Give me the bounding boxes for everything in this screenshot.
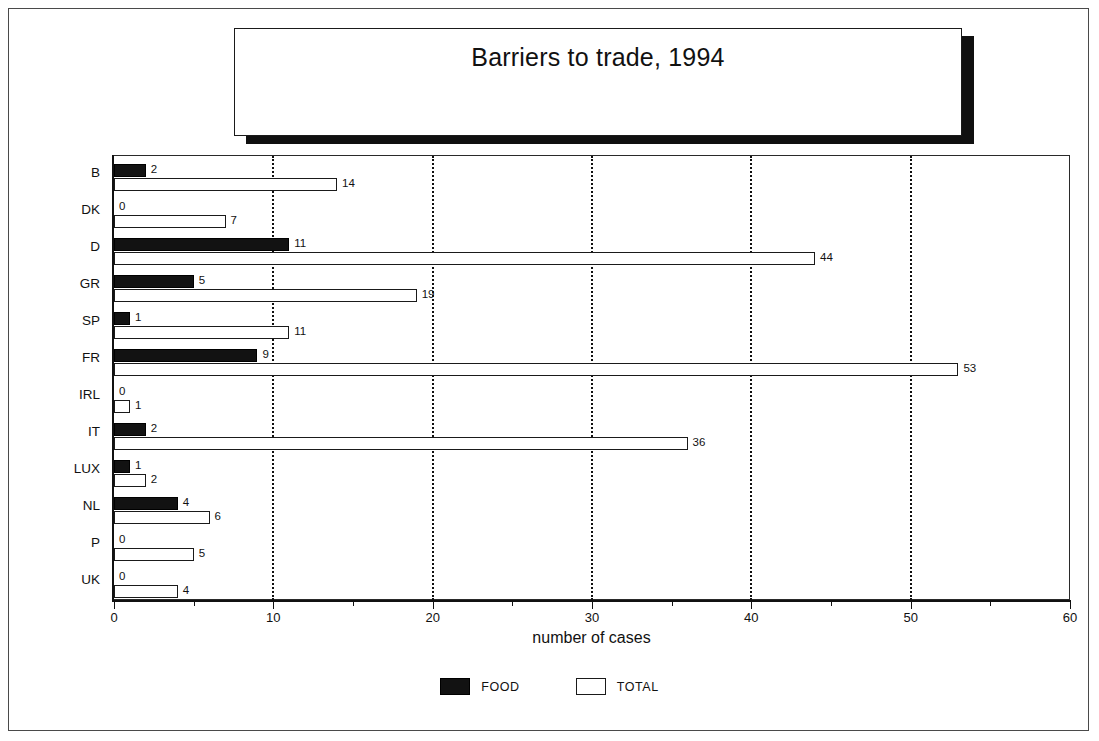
bar-label-total-lux: 2 — [151, 473, 157, 485]
legend-label-food: FOOD — [481, 680, 520, 694]
bar-food-nl — [114, 497, 178, 510]
legend-swatch-total — [576, 678, 606, 695]
bar-label-total-uk: 4 — [183, 584, 189, 596]
bar-label-total-fr: 53 — [963, 362, 976, 374]
bar-food-sp — [114, 312, 130, 325]
x-axis-title: number of cases — [113, 629, 1070, 647]
x-minortick-35 — [672, 601, 673, 606]
x-tick-label-50: 50 — [903, 610, 917, 625]
y-category-label-it: IT — [0, 424, 100, 439]
bar-total-d — [114, 252, 815, 265]
bar-total-dk — [114, 215, 226, 228]
y-category-label-d: D — [0, 239, 100, 254]
bar-total-irl — [114, 400, 130, 413]
y-category-label-sp: SP — [0, 313, 100, 328]
bar-label-total-it: 36 — [693, 436, 706, 448]
x-tick-10 — [273, 601, 274, 609]
x-tick-label-30: 30 — [585, 610, 599, 625]
bar-total-it — [114, 437, 688, 450]
x-minortick-5 — [194, 601, 195, 606]
bar-total-p — [114, 548, 194, 561]
bar-total-lux — [114, 474, 146, 487]
bar-total-b — [114, 178, 337, 191]
bar-food-gr — [114, 275, 194, 288]
bar-total-fr — [114, 363, 958, 376]
x-tick-label-20: 20 — [425, 610, 439, 625]
x-tick-label-0: 0 — [110, 610, 117, 625]
bar-food-lux — [114, 460, 130, 473]
bar-label-food-nl: 4 — [183, 496, 189, 508]
bar-label-food-lux: 1 — [135, 459, 141, 471]
y-category-label-p: P — [0, 535, 100, 550]
bar-label-food-p: 0 — [119, 533, 125, 545]
y-category-label-lux: LUX — [0, 461, 100, 476]
y-category-label-fr: FR — [0, 350, 100, 365]
bar-total-uk — [114, 585, 178, 598]
y-category-label-uk: UK — [0, 572, 100, 587]
y-category-label-b: B — [0, 165, 100, 180]
x-minortick-15 — [353, 601, 354, 606]
x-tick-20 — [433, 601, 434, 609]
x-tick-label-40: 40 — [744, 610, 758, 625]
x-tick-30 — [592, 601, 593, 609]
bar-label-total-p: 5 — [199, 547, 205, 559]
x-tick-50 — [911, 601, 912, 609]
bar-total-nl — [114, 511, 210, 524]
x-tick-60 — [1070, 601, 1071, 609]
bar-label-total-d: 44 — [820, 251, 833, 263]
bar-label-food-gr: 5 — [199, 274, 205, 286]
bar-label-food-dk: 0 — [119, 200, 125, 212]
y-category-label-dk: DK — [0, 202, 100, 217]
bar-food-b — [114, 164, 146, 177]
gridline-50 — [910, 156, 912, 600]
chart-legend: FOODTOTAL — [0, 678, 1099, 695]
gridline-10 — [272, 156, 274, 600]
x-tick-40 — [751, 601, 752, 609]
x-minortick-55 — [990, 601, 991, 606]
y-category-label-nl: NL — [0, 498, 100, 513]
bar-label-food-irl: 0 — [119, 385, 125, 397]
y-category-label-irl: IRL — [0, 387, 100, 402]
x-tick-0 — [114, 601, 115, 609]
gridline-40 — [750, 156, 752, 600]
x-minortick-45 — [831, 601, 832, 606]
bar-label-total-gr: 19 — [422, 288, 435, 300]
bar-label-food-sp: 1 — [135, 311, 141, 323]
bar-label-food-fr: 9 — [262, 348, 268, 360]
legend-swatch-food — [440, 678, 470, 695]
bar-label-total-dk: 7 — [231, 214, 237, 226]
x-minortick-25 — [512, 601, 513, 606]
bar-label-total-irl: 1 — [135, 399, 141, 411]
gridline-30 — [591, 156, 593, 600]
y-category-label-gr: GR — [0, 276, 100, 291]
gridline-20 — [432, 156, 434, 600]
bar-food-it — [114, 423, 146, 436]
bar-total-sp — [114, 326, 289, 339]
bar-label-food-it: 2 — [151, 422, 157, 434]
bar-label-total-b: 14 — [342, 177, 355, 189]
bar-label-total-sp: 11 — [294, 325, 306, 337]
legend-label-total: TOTAL — [617, 680, 659, 694]
bar-label-food-d: 11 — [294, 237, 306, 249]
x-tick-label-10: 10 — [266, 610, 280, 625]
bar-food-fr — [114, 349, 257, 362]
x-tick-label-60: 60 — [1063, 610, 1077, 625]
legend-item-food: FOOD — [440, 678, 520, 695]
legend-item-total: TOTAL — [576, 678, 659, 695]
title-plaque: Barriers to trade, 1994 — [234, 28, 962, 136]
bar-label-total-nl: 6 — [215, 510, 221, 522]
bar-food-d — [114, 238, 289, 251]
chart-title: Barriers to trade, 1994 — [235, 43, 961, 72]
bar-total-gr — [114, 289, 417, 302]
bar-label-food-uk: 0 — [119, 570, 125, 582]
bar-label-food-b: 2 — [151, 163, 157, 175]
